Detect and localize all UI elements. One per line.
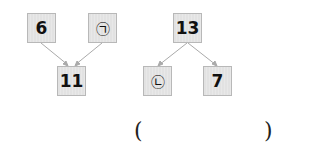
answer-open-paren: ( — [134, 118, 143, 143]
symbol-text: ㉡ — [151, 71, 165, 91]
number-box-6: 6 — [27, 13, 56, 43]
unknown-box-a: ㉠ — [88, 13, 117, 43]
unknown-box-b: ㉡ — [143, 66, 172, 96]
number-box-13: 13 — [173, 13, 202, 43]
number-box-7: 7 — [203, 66, 232, 96]
value-text: 13 — [176, 18, 200, 38]
value-text: 11 — [60, 71, 84, 91]
value-text: 7 — [212, 71, 224, 91]
answer-close-paren: ) — [264, 118, 273, 143]
number-box-11: 11 — [57, 66, 86, 96]
value-text: 6 — [36, 18, 48, 38]
symbol-text: ㉠ — [96, 18, 110, 38]
